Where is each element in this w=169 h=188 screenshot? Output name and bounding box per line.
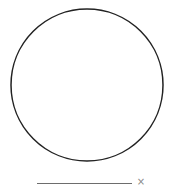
circle-shape xyxy=(11,9,163,161)
close-icon[interactable]: × xyxy=(135,176,147,188)
text-input-underline[interactable] xyxy=(37,183,132,184)
text-input-row: × xyxy=(37,176,147,188)
drawing-canvas[interactable] xyxy=(0,0,169,170)
